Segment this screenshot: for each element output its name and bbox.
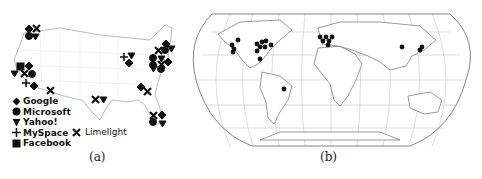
caption-b: (b): [320, 150, 337, 164]
legend-item-limelight: Limelight: [72, 127, 127, 137]
legend-item-myspace: MySpace: [12, 128, 71, 139]
triangle-down-icon: [12, 118, 21, 127]
legend-label: Limelight: [85, 127, 127, 137]
circle-icon: [12, 107, 21, 116]
legend-item-google: Google: [12, 96, 71, 107]
legend-label: Google: [23, 96, 58, 107]
legend-label: Facebook: [23, 138, 71, 149]
legend-item-microsoft: Microsoft: [12, 107, 71, 118]
legend-item-facebook: Facebook: [12, 138, 71, 149]
legend-label: MySpace: [23, 128, 68, 139]
legend-item-yahoo: Yahoo!: [12, 117, 71, 128]
x-icon: [72, 128, 81, 137]
plus-icon: [12, 128, 21, 137]
square-icon: [12, 139, 21, 148]
panel-b-world-map: (b): [180, 0, 482, 179]
world-map-svg: [180, 0, 482, 150]
diamond-icon: [12, 97, 21, 106]
legend-label: Microsoft: [23, 107, 71, 118]
legend: Google Microsoft Yahoo! MySpace Facebook: [12, 96, 71, 149]
caption-a: (a): [89, 150, 106, 164]
legend-label: Yahoo!: [23, 117, 58, 128]
panel-a-us-map: Google Microsoft Yahoo! MySpace Facebook…: [0, 0, 180, 179]
